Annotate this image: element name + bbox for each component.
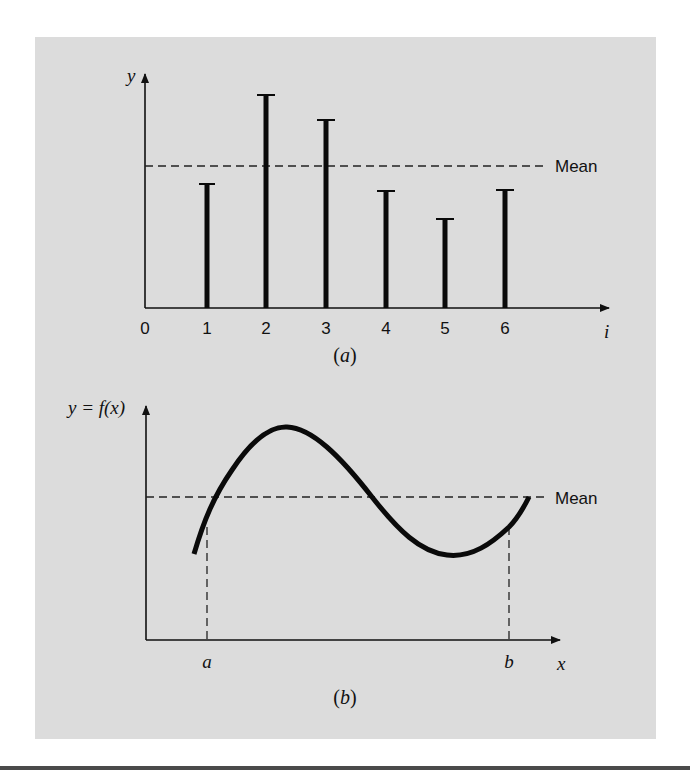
chart-b-tick-a: a (202, 651, 212, 672)
chart-a-bars (199, 95, 514, 308)
chart-b-x-label: x (556, 653, 566, 674)
chart-b-caption: (b) (333, 686, 356, 709)
tick-1: 1 (202, 319, 211, 338)
chart-a-x-label: i (604, 321, 609, 342)
bar-1 (199, 184, 215, 308)
tick-6: 6 (500, 319, 509, 338)
chart-b: y = f(x) x a b Mean (b) (66, 397, 598, 709)
chart-a-y-label: y (125, 65, 136, 86)
chart-b-tick-b: b (504, 651, 514, 672)
chart-a: y i Mean 0 1 2 3 4 5 6 (a) (125, 65, 609, 367)
chart-a-x-ticks: 0 1 2 3 4 5 6 (140, 319, 509, 338)
chart-b-y-label: y = f(x) (66, 397, 125, 419)
bar-3 (317, 120, 335, 308)
bar-6 (496, 190, 514, 308)
tick-4: 4 (381, 319, 390, 338)
figure-svg: y i Mean 0 1 2 3 4 5 6 (a) y = f(x) (0, 0, 690, 770)
bar-2 (257, 95, 275, 308)
tick-3: 3 (321, 319, 330, 338)
chart-a-mean-label: Mean (555, 157, 598, 176)
chart-a-caption: (a) (333, 344, 356, 367)
chart-b-curve (194, 427, 529, 555)
tick-5: 5 (440, 319, 449, 338)
tick-2: 2 (261, 319, 270, 338)
chart-b-mean-label: Mean (555, 489, 598, 508)
tick-0: 0 (140, 319, 149, 338)
bar-5 (436, 219, 454, 308)
bar-4 (377, 191, 395, 308)
